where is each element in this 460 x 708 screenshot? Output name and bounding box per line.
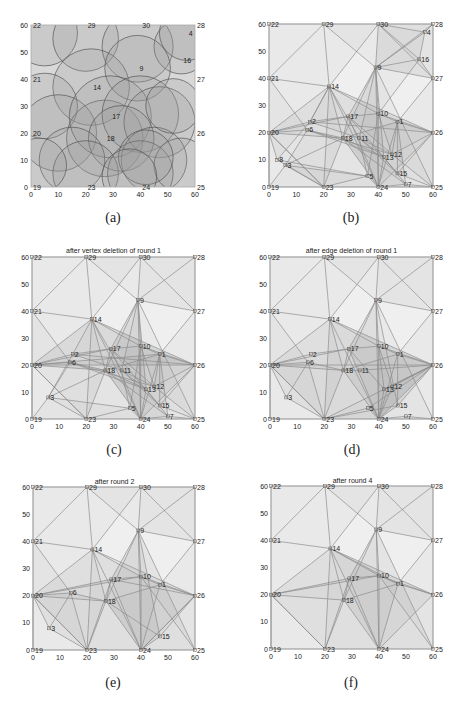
node-label: 10: [143, 573, 151, 580]
node-label: 5: [369, 173, 373, 180]
x-tick-label: 20: [83, 654, 91, 661]
y-tick-label: 50: [20, 49, 28, 56]
coverage-circle: [159, 6, 214, 61]
x-tick-label: 10: [56, 654, 64, 661]
node-label: 9: [140, 527, 144, 534]
node-label: 23: [326, 416, 334, 423]
node-label: 22: [273, 483, 281, 490]
node-label: 28: [435, 254, 443, 261]
node-label: 25: [197, 416, 205, 423]
node-label: 17: [112, 113, 120, 120]
node-label: 7: [170, 413, 174, 420]
node-label: 30: [143, 484, 151, 491]
node-label: 30: [380, 21, 388, 28]
node-label: 21: [33, 76, 41, 83]
node-label: 14: [94, 546, 102, 553]
node-label: 30: [143, 254, 151, 261]
node-label: 6: [309, 126, 313, 133]
node-label: 8: [279, 156, 283, 163]
node-label: 9: [378, 297, 382, 304]
node-label: 18: [345, 135, 353, 142]
node-label: 12: [394, 151, 402, 158]
x-tick-label: 10: [54, 191, 62, 198]
node-label: 15: [162, 402, 170, 409]
y-tick-label: 50: [258, 48, 266, 55]
node-label: 18: [108, 598, 116, 605]
graph-plot: 0102030405060010203040506012356791011121…: [230, 235, 460, 470]
y-tick-label: 50: [21, 281, 29, 288]
x-tick-label: 0: [30, 423, 34, 430]
node-label: 3: [288, 394, 292, 401]
node-label: 27: [435, 537, 443, 544]
node-label: 15: [400, 402, 408, 409]
y-tick-label: 60: [22, 484, 30, 491]
node-label: 22: [34, 254, 42, 261]
node-label: 16: [421, 56, 429, 63]
node-label: 5: [132, 405, 136, 412]
caption-e: (e): [93, 675, 133, 691]
node-label: 20: [271, 129, 279, 136]
node-label: 28: [435, 21, 443, 28]
y-tick-label: 0: [25, 416, 29, 423]
x-tick-label: 30: [110, 654, 118, 661]
y-tick-label: 10: [260, 618, 268, 625]
x-tick-label: 60: [191, 423, 199, 430]
x-tick-label: 60: [429, 191, 437, 198]
y-tick-label: 30: [21, 335, 29, 342]
node-label: 24: [381, 416, 389, 423]
x-tick-label: 40: [375, 653, 383, 660]
node-label: 20: [272, 362, 280, 369]
node-label: 19: [34, 416, 42, 423]
y-tick-label: 60: [20, 22, 28, 29]
node-label: 18: [346, 597, 354, 604]
y-tick-label: 40: [260, 537, 268, 544]
y-tick-label: 40: [259, 308, 267, 315]
panel-f: after round 4 01020304050600102030405060…: [230, 470, 460, 708]
x-tick-label: 40: [137, 654, 145, 661]
node-label: 28: [197, 254, 205, 261]
node-label: 14: [94, 316, 102, 323]
panel-b: 0102030405060010203040506012345678910111…: [230, 0, 460, 235]
node-label: 11: [362, 367, 369, 374]
y-tick-label: 20: [22, 592, 30, 599]
y-tick-label: 10: [21, 389, 29, 396]
node-label: 4: [427, 29, 431, 36]
node-label: 21: [272, 308, 280, 315]
node-label: 21: [34, 308, 42, 315]
caption-c: (c): [94, 442, 134, 458]
node-label: 17: [113, 345, 121, 352]
y-tick-label: 10: [22, 619, 30, 626]
x-tick-label: 50: [402, 191, 410, 198]
y-tick-label: 50: [260, 510, 268, 517]
node-label: 7: [408, 413, 412, 420]
node-label: 24: [142, 184, 150, 191]
coverage-plot: 0102030405060010203040506022293028416921…: [0, 0, 230, 235]
y-tick-label: 30: [20, 103, 28, 110]
node-label: 26: [435, 591, 443, 598]
node-label: 25: [435, 416, 443, 423]
node-label: 23: [88, 184, 96, 191]
y-tick-label: 10: [20, 157, 28, 164]
graph-plot: 0102030405060010203040506012345678910111…: [230, 0, 460, 235]
node-label: 27: [197, 538, 205, 545]
caption-d: (d): [332, 442, 372, 458]
x-tick-label: 40: [136, 191, 144, 198]
y-tick-label: 60: [258, 21, 266, 28]
y-tick-label: 30: [259, 335, 267, 342]
node-label: 29: [327, 483, 335, 490]
node-label: 26: [435, 129, 443, 136]
node-label: 1: [162, 581, 166, 588]
node-label: 20: [35, 592, 43, 599]
x-tick-label: 30: [347, 191, 355, 198]
y-tick-label: 20: [20, 130, 28, 137]
y-tick-label: 10: [259, 389, 267, 396]
node-label: 11: [361, 135, 368, 142]
node-label: 19: [35, 647, 43, 654]
node-label: 23: [88, 416, 96, 423]
panel-a: 0102030405060010203040506022293028416921…: [0, 0, 230, 235]
node-label: 9: [140, 297, 144, 304]
node-label: 18: [345, 367, 353, 374]
node-label: 29: [88, 254, 96, 261]
node-label: 21: [35, 538, 43, 545]
node-label: 2: [313, 351, 317, 358]
